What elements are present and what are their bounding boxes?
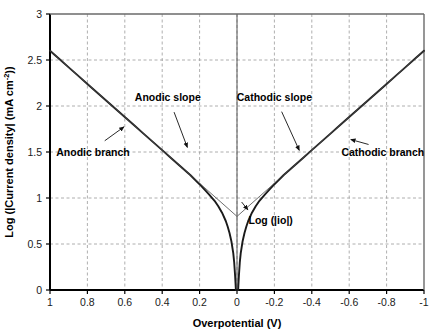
chart-background xyxy=(0,0,439,334)
y-tick-label: 2 xyxy=(36,100,42,112)
x-tick-label: 1 xyxy=(47,296,53,308)
y-tick-label: 2.5 xyxy=(27,54,42,66)
annotation-label-anodic-branch: Anodic branch xyxy=(56,146,130,158)
annotation-label-cathodic-branch: Cathodic branch xyxy=(341,146,424,158)
annotation-label-anodic-slope: Anodic slope xyxy=(135,91,201,103)
x-tick-label: -0.6 xyxy=(340,296,358,308)
x-tick-label: -1 xyxy=(419,296,428,308)
y-tick-label: 0 xyxy=(36,284,42,296)
y-tick-label: 1 xyxy=(36,192,42,204)
x-tick-label: 0.4 xyxy=(155,296,170,308)
tafel-plot-figure: Anodic branchAnodic slopeCathodic slopeC… xyxy=(0,0,439,334)
x-tick-label: -0.8 xyxy=(378,296,396,308)
chart-canvas: Anodic branchAnodic slopeCathodic slopeC… xyxy=(0,0,439,334)
x-tick-label: -0.2 xyxy=(265,296,283,308)
x-tick-label: 0.2 xyxy=(192,296,207,308)
y-axis-title: Log (|Current density| (mA cm-2)) xyxy=(2,66,15,238)
y-tick-label: 0.5 xyxy=(27,238,42,250)
x-tick-label: -0.4 xyxy=(303,296,321,308)
annotation-label-log-i0: Log (|io|) xyxy=(248,214,292,226)
x-tick-label: 0.8 xyxy=(80,296,95,308)
y-tick-label: 3 xyxy=(36,8,42,20)
x-tick-label: 0 xyxy=(234,296,240,308)
y-tick-label: 1.5 xyxy=(27,146,42,158)
annotation-label-cathodic-slope: Cathodic slope xyxy=(237,91,312,103)
x-axis-title: Overpotential (V) xyxy=(193,317,282,329)
x-tick-label: 0.6 xyxy=(117,296,132,308)
